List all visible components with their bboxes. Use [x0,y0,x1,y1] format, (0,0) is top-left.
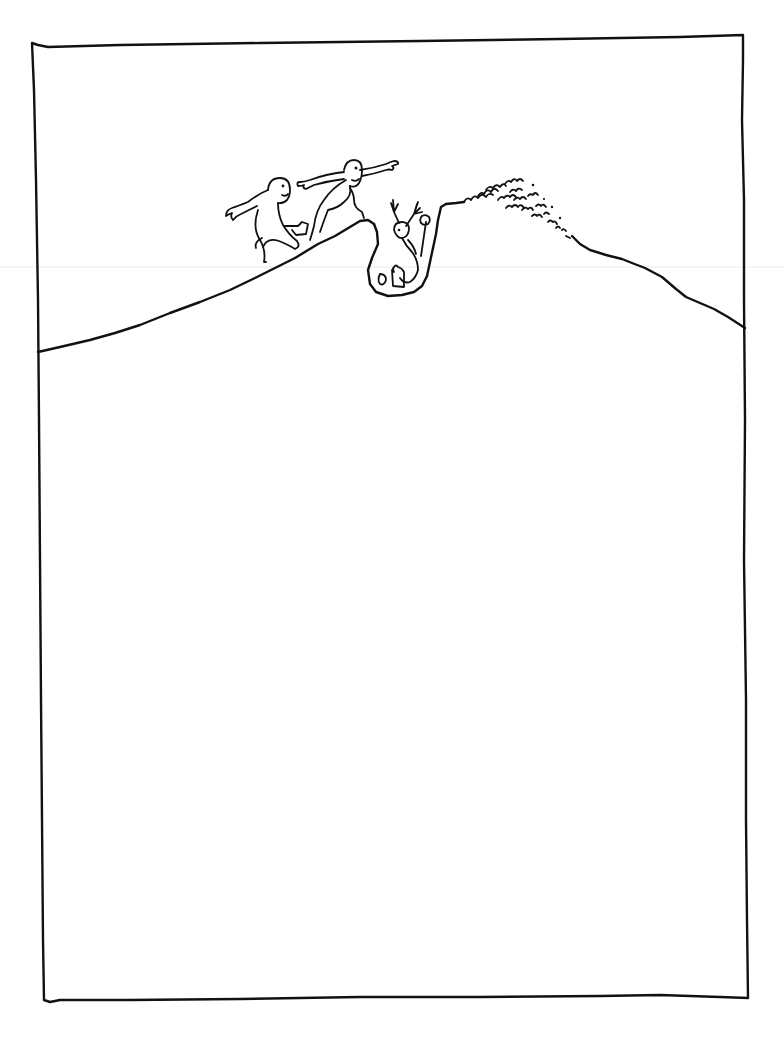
figure-left [226,178,308,262]
pit-right-wall [427,204,446,276]
cartoon-illustration [0,0,784,1048]
pit-left-wall [368,224,427,296]
frame-border [32,35,748,1002]
figure-in-pit [379,200,430,287]
pit-shovel [420,215,430,256]
figure-leaping-head [344,160,362,187]
dirt-pile [464,179,570,238]
bucket [392,266,404,288]
hill-right-slope [446,202,745,328]
figure-left-head [268,178,290,203]
hill-left-slope [38,220,374,352]
